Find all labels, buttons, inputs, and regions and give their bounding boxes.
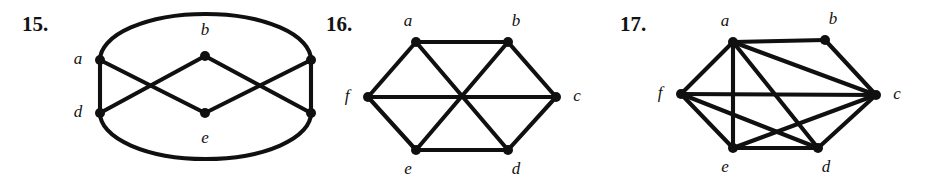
vertex-label-e: e [404,159,412,178]
vertex-label-b: b [829,9,838,28]
vertex-d [95,108,105,118]
figure-16: 16. abcdef [316,0,608,184]
edge-bc [508,42,556,97]
edge-fa [368,42,416,97]
vertex-f [306,108,316,118]
vertex-label-a: a [404,11,413,30]
edge-cd [508,97,556,150]
vertex-label-e: e [201,128,209,147]
vertex-c [551,92,561,102]
vertex-e [200,108,210,118]
graph-15-drawing: abcdef [0,0,316,184]
graph-16-drawing: abcdef [316,0,608,184]
vertex-label-f: f [345,86,352,105]
figure-17: 17. abcdef [608,0,929,184]
vertex-c [306,55,316,65]
vertex-a [95,55,105,65]
vertex-c [871,90,881,100]
vertex-label-d: d [512,159,521,178]
vertex-label-a: a [74,49,83,68]
vertex-a [411,37,421,47]
vertex-f [676,89,686,99]
vertex-label-a: a [721,11,730,30]
edge-fc [681,94,876,95]
vertex-label-c: c [573,86,581,105]
edge-af [681,42,733,94]
graph-17-drawing: abcdef [608,0,929,184]
vertex-a [728,37,738,47]
vertex-label-e: e [721,157,729,176]
vertex-label-f: f [658,83,665,102]
edge-dc [818,95,876,148]
vertex-e [728,143,738,153]
edge-ab [733,40,825,42]
vertex-label-b: b [512,11,521,30]
vertex-label-d: d [74,102,83,121]
vertex-d [813,143,823,153]
exercise-figure-row: 15. abcdef 16. abcdef 17. abcdef [0,0,929,184]
vertex-b [503,37,513,47]
vertex-label-c: c [893,84,901,103]
figure-15: 15. abcdef [0,0,316,184]
vertex-label-b: b [201,20,210,39]
vertex-e [411,145,421,155]
vertex-label-d: d [822,157,831,176]
vertex-b [820,35,830,45]
vertex-d [503,145,513,155]
vertex-b [200,51,210,61]
vertex-f [363,92,373,102]
edge-ef [368,97,416,150]
